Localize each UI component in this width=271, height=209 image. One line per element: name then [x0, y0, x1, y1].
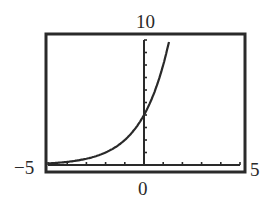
x-min-label: −5 — [14, 158, 34, 177]
x-max-label: 5 — [250, 160, 260, 179]
function-curve — [48, 42, 169, 163]
y-max-label: 10 — [136, 12, 155, 31]
y-axis — [144, 40, 147, 165]
y-min-label: 0 — [138, 179, 148, 198]
